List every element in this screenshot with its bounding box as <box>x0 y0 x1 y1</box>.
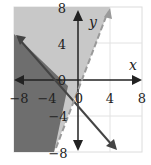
x-tick-4: 4 <box>106 91 114 106</box>
y-tick-neg8: −8 <box>48 146 67 161</box>
x-tick-0: 0 <box>75 91 83 106</box>
y-axis-label: y <box>88 14 98 30</box>
y-tick-4: 4 <box>58 37 66 52</box>
inequality-graph: −8 −4 0 4 8 8 4 0 −4 −8 y x <box>0 0 151 165</box>
x-tick-neg8: −8 <box>9 91 28 106</box>
y-tick-8: 8 <box>58 1 66 16</box>
y-tick-neg4: −4 <box>48 109 67 124</box>
x-tick-8: 8 <box>138 91 146 106</box>
x-tick-neg4: −4 <box>37 91 56 106</box>
x-axis-label: x <box>129 57 137 73</box>
y-tick-0: 0 <box>58 73 66 88</box>
